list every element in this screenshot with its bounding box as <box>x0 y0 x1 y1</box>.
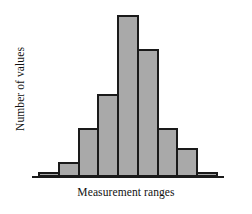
histogram-bar <box>157 128 179 177</box>
histogram-bar <box>58 162 80 177</box>
x-axis-label: Measurement ranges <box>0 186 252 198</box>
plot-area <box>38 10 218 177</box>
histogram-figure: Number of values Measurement ranges <box>0 0 252 214</box>
histogram-bar <box>97 94 119 178</box>
x-axis-line <box>32 176 224 178</box>
histogram-bar <box>78 128 100 177</box>
histogram-bar <box>176 148 198 177</box>
y-axis-label-text: Number of values <box>14 47 26 131</box>
y-axis-label: Number of values <box>0 0 40 177</box>
histogram-bar <box>117 15 139 177</box>
histogram-bar <box>137 49 159 177</box>
bar-series <box>38 10 218 177</box>
